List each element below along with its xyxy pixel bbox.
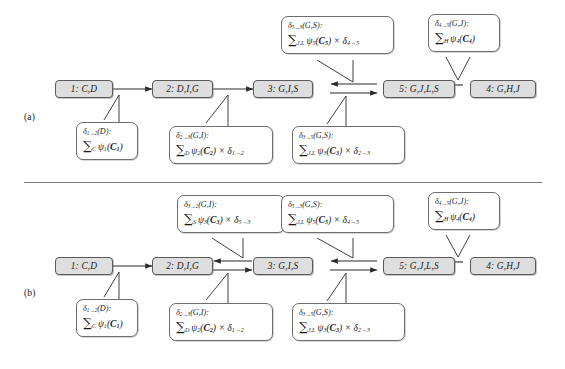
node-cluster-1[interactable]: 1: C,D	[55, 80, 113, 98]
node-cluster-5[interactable]: 5: G,J,L,S	[383, 257, 455, 275]
message-box-4-to-5: δ4→5(G,J): ∑H ψ4(C4)	[428, 192, 500, 230]
node-cluster-3[interactable]: 3: G,I,S	[253, 257, 313, 275]
message-box-2-to-3: δ2→3(G,I): ∑D ψ2(C2) × δ1→2	[169, 303, 273, 341]
message-2-to-3-line2: ∑D ψ2(C2) × δ1→2	[176, 143, 267, 160]
message-4-to-5-line2: ∑H ψ4(C4)	[435, 31, 494, 48]
node-cluster-5[interactable]: 5: G,J,L,S	[383, 80, 455, 98]
message-5-to-3-line1: δ5→3(G,S):	[288, 20, 388, 33]
message-1-to-2-line2: ∑C ψ1(C1)	[83, 139, 132, 156]
message-box-1-to-2: δ1→2(D): ∑C ψ1(C1)	[76, 122, 138, 160]
message-box-4-to-5: δ4→5(G,J): ∑H ψ4(C4)	[428, 14, 500, 52]
message-2-to-3-line1: δ2→3(G,I):	[176, 307, 267, 320]
node-cluster-2-label: 2: D,I,G	[166, 84, 199, 94]
node-cluster-5-label: 5: G,J,L,S	[399, 84, 439, 94]
message-box-3-to-2: δ3→2(G,I): ∑S ψ3(C3) × δ5→3	[177, 195, 285, 233]
panel-a: (a)	[0, 0, 565, 182]
message-3-to-2-line1: δ3→2(G,I):	[184, 199, 279, 212]
message-box-3-to-5: δ3→5(G,S): ∑J,L ψ3(C3) × δ2→3	[292, 126, 405, 164]
message-4-to-5-line2: ∑H ψ4(C4)	[435, 209, 494, 226]
message-1-to-2-line2: ∑C ψ1(C1)	[83, 316, 132, 333]
node-cluster-2[interactable]: 2: D,I,G	[152, 257, 213, 275]
message-2-to-3-line2: ∑D ψ2(C2) × δ1→2	[176, 320, 267, 337]
node-cluster-2-label: 2: D,I,G	[166, 261, 199, 271]
message-box-5-to-3: δ5→3(G,S): ∑J,L ψ5(C5) × δ4→5	[281, 16, 394, 54]
message-5-to-3-line2: ∑J,L ψ5(C5) × δ4→5	[288, 212, 388, 229]
node-cluster-3[interactable]: 3: G,I,S	[253, 80, 313, 98]
panel-b: (b)	[0, 183, 565, 369]
message-3-to-5-line1: δ3→5(G,S):	[299, 130, 399, 143]
node-cluster-4-label: 4: G,H,J	[486, 84, 520, 94]
message-box-3-to-5: δ3→5(G,S): ∑J,L ψ3(C3) × δ2→3	[292, 303, 405, 341]
message-box-5-to-3: δ5→3(G,S): ∑J,L ψ5(C5) × δ4→5	[281, 195, 394, 233]
node-cluster-3-label: 3: G,I,S	[268, 261, 299, 271]
node-cluster-5-label: 5: G,J,L,S	[399, 261, 439, 271]
message-3-to-5-line2: ∑J,L ψ3(C3) × δ2→3	[299, 143, 399, 160]
node-cluster-3-label: 3: G,I,S	[268, 84, 299, 94]
node-cluster-4[interactable]: 4: G,H,J	[470, 257, 536, 275]
node-cluster-1[interactable]: 1: C,D	[55, 257, 113, 275]
message-3-to-5-line2: ∑J,L ψ3(C3) × δ2→3	[299, 320, 399, 337]
panel-b-label: (b)	[24, 288, 36, 298]
node-cluster-1-label: 1: C,D	[71, 84, 97, 94]
message-2-to-3-line1: δ2→3(G,I):	[176, 130, 267, 143]
message-3-to-5-line1: δ3→5(G,S):	[299, 307, 399, 320]
node-cluster-1-label: 1: C,D	[71, 261, 97, 271]
message-5-to-3-line1: δ5→3(G,S):	[288, 199, 388, 212]
message-box-1-to-2: δ1→2(D): ∑C ψ1(C1)	[76, 299, 138, 337]
node-cluster-4-label: 4: G,H,J	[486, 261, 520, 271]
message-5-to-3-line2: ∑J,L ψ5(C5) × δ4→5	[288, 33, 388, 50]
node-cluster-2[interactable]: 2: D,I,G	[152, 80, 213, 98]
node-cluster-4[interactable]: 4: G,H,J	[470, 80, 536, 98]
message-3-to-2-line2: ∑S ψ3(C3) × δ5→3	[184, 212, 279, 229]
message-box-2-to-3: δ2→3(G,I): ∑D ψ2(C2) × δ1→2	[169, 126, 273, 164]
panel-a-label: (a)	[24, 112, 35, 122]
